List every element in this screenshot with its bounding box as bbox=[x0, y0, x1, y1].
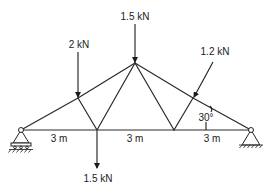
angle-label: 30° bbox=[198, 112, 213, 123]
load-labels: 1.5 kN 2 kN 1.2 kN 1.5 kN bbox=[69, 11, 230, 184]
angle-indicator: 30° bbox=[198, 106, 213, 130]
roller-wheel bbox=[20, 146, 23, 149]
span-label-2: 3 m bbox=[127, 133, 144, 144]
web-right-diagonal bbox=[135, 63, 174, 130]
top-chord-left-upper bbox=[78, 63, 135, 98]
load-label-right-top: 1.2 kN bbox=[201, 46, 230, 57]
load-label-left-top: 2 kN bbox=[69, 39, 90, 50]
web-left-vertical bbox=[78, 98, 97, 130]
web-left-diagonal bbox=[97, 63, 135, 130]
web-right-vertical bbox=[174, 98, 193, 130]
top-chord-left-lower bbox=[21, 98, 78, 130]
span-label-3: 3 m bbox=[204, 133, 221, 144]
support-pin-left bbox=[19, 128, 24, 133]
load-label-apex: 1.5 kN bbox=[121, 11, 150, 22]
roller-wheel bbox=[26, 146, 29, 149]
span-label-1: 3 m bbox=[51, 133, 68, 144]
top-chord-right-upper bbox=[135, 63, 193, 98]
load-arrows bbox=[78, 24, 213, 168]
load-label-bottom-left: 1.5 kN bbox=[84, 173, 113, 184]
span-dimensions: 3 m 3 m 3 m bbox=[51, 133, 221, 144]
support-left bbox=[9, 128, 34, 153]
roller-wheel bbox=[14, 146, 17, 149]
load-arrow-right-top bbox=[194, 62, 213, 97]
roller-base bbox=[11, 143, 31, 146]
support-pin-right bbox=[249, 128, 254, 133]
truss-members bbox=[21, 63, 251, 130]
truss-diagram: 1.5 kN 2 kN 1.2 kN 1.5 kN 3 m 3 m 3 m 30… bbox=[0, 0, 267, 189]
